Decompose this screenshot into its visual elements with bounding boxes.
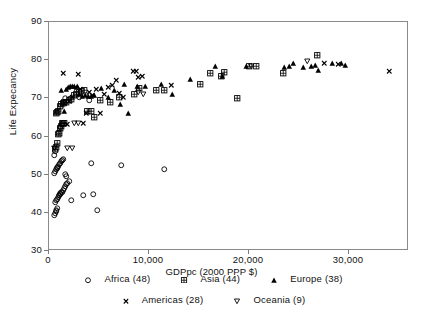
y-tick-label: 50: [18, 169, 42, 179]
data-point: [66, 98, 72, 104]
legend-label: Americas (28): [142, 294, 204, 305]
data-point: [207, 70, 213, 76]
data-point: [75, 71, 81, 77]
y-tick-label: 70: [18, 92, 42, 102]
data-point: [243, 63, 249, 69]
data-point: [212, 63, 218, 69]
data-point: [61, 100, 67, 106]
data-point: [116, 94, 122, 100]
data-point: [130, 68, 136, 74]
data-point: [168, 82, 174, 88]
data-point: [61, 99, 67, 105]
data-point: [80, 192, 86, 198]
data-point: [86, 89, 92, 95]
data-point: [82, 92, 88, 98]
data-point: [246, 63, 252, 69]
data-points-layer: [48, 21, 408, 250]
square-cross-icon: [176, 272, 192, 284]
legend-row-primary: Africa (48)Asia (44)Europe (38): [0, 272, 423, 284]
data-point: [342, 62, 348, 68]
data-point: [54, 165, 60, 171]
legend-entry[interactable]: Europe (38): [266, 272, 342, 284]
data-point: [280, 70, 286, 76]
legend: Africa (48)Asia (44)Europe (38) Americas…: [0, 272, 423, 322]
data-point: [64, 180, 70, 186]
data-point: [57, 124, 63, 130]
data-point: [120, 94, 126, 100]
open-down-triangle-icon: [229, 293, 245, 305]
data-point: [140, 91, 146, 97]
data-point: [58, 87, 64, 93]
data-point: [71, 92, 77, 98]
data-point: [131, 91, 137, 97]
data-point: [187, 76, 193, 82]
data-point: [59, 120, 65, 126]
data-point: [59, 157, 65, 163]
data-point: [121, 81, 127, 87]
data-point: [53, 197, 59, 203]
data-point: [54, 140, 60, 146]
data-point: [134, 83, 140, 89]
data-point: [88, 93, 94, 99]
data-point: [62, 183, 68, 189]
data-point: [321, 60, 327, 66]
data-point: [58, 158, 64, 164]
data-point: [93, 86, 99, 92]
data-point: [55, 108, 61, 114]
data-point: [161, 87, 167, 93]
legend-entry[interactable]: Africa (48): [80, 272, 176, 284]
data-point: [56, 192, 62, 198]
data-point: [153, 87, 159, 93]
data-point: [60, 187, 66, 193]
data-point: [59, 189, 65, 195]
data-point: [65, 84, 71, 90]
data-point: [142, 83, 148, 89]
data-point: [56, 130, 62, 136]
data-point: [81, 87, 87, 93]
x-cross-icon: [118, 293, 134, 305]
data-point: [60, 70, 66, 76]
data-point: [73, 85, 79, 91]
legend-entry[interactable]: Oceania (9): [229, 293, 305, 305]
scatter-chart: 30405060708090 010,00020,00030,000 Life …: [0, 0, 423, 325]
x-tick-mark: [348, 250, 349, 254]
data-point: [57, 191, 63, 197]
data-point: [52, 168, 58, 174]
data-point: [85, 93, 91, 99]
data-point: [56, 192, 62, 198]
data-point: [169, 91, 175, 97]
data-point: [94, 207, 100, 213]
data-point: [116, 90, 122, 96]
data-point: [52, 148, 58, 154]
data-point: [76, 91, 82, 97]
data-point: [97, 97, 103, 103]
data-point: [105, 84, 111, 90]
data-point: [109, 82, 115, 88]
data-point: [53, 110, 59, 116]
data-point: [71, 83, 77, 89]
data-point: [136, 85, 142, 91]
data-point: [73, 91, 79, 97]
x-tick-label: 20,000: [233, 254, 263, 265]
data-point: [54, 196, 60, 202]
data-point: [84, 108, 90, 114]
data-point: [54, 109, 60, 115]
data-point: [52, 146, 58, 152]
data-point: [91, 92, 97, 98]
legend-entry[interactable]: Asia (44): [176, 272, 266, 284]
legend-label: Europe (38): [290, 273, 342, 284]
legend-entry[interactable]: Americas (28): [118, 293, 230, 305]
data-point: [57, 190, 63, 196]
data-point: [80, 120, 86, 126]
data-point: [314, 52, 320, 58]
data-point: [59, 121, 65, 127]
data-point: [63, 99, 69, 105]
x-tick-mark: [148, 250, 149, 254]
data-point: [86, 97, 92, 103]
data-point: [218, 73, 224, 79]
y-tick-label: 30: [18, 245, 42, 255]
data-point: [248, 63, 254, 69]
data-point: [101, 91, 107, 97]
legend-row-secondary: Americas (28)Oceania (9): [0, 293, 423, 305]
data-point: [56, 161, 62, 167]
